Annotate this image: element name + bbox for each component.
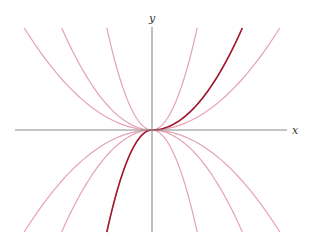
x-axis-label: x bbox=[292, 124, 299, 137]
y-axis-label: y bbox=[148, 12, 156, 25]
highlight-curve-branch bbox=[152, 28, 242, 130]
parabola-family-chart: x y bbox=[0, 0, 309, 245]
highlight-curve-branch bbox=[107, 130, 152, 232]
